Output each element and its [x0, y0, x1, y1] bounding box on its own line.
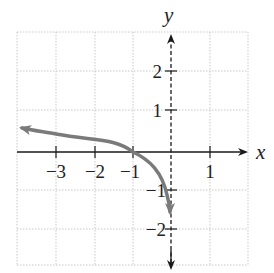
x-axis-label: x [255, 140, 266, 164]
y-axis-label: y [162, 3, 174, 27]
x-tick-label: 1 [205, 161, 215, 182]
function-curve [22, 128, 133, 152]
x-tick-label: −2 [85, 161, 105, 182]
y-tick-label: 1 [153, 100, 163, 121]
graph: −3 −2 −1 1 2 1 −1 −2 x y [0, 0, 274, 273]
y-tick-label: −2 [146, 219, 166, 240]
x-tick-label: −1 [120, 161, 140, 182]
x-tick-label: −3 [46, 161, 66, 182]
y-tick-label: 2 [153, 61, 163, 82]
